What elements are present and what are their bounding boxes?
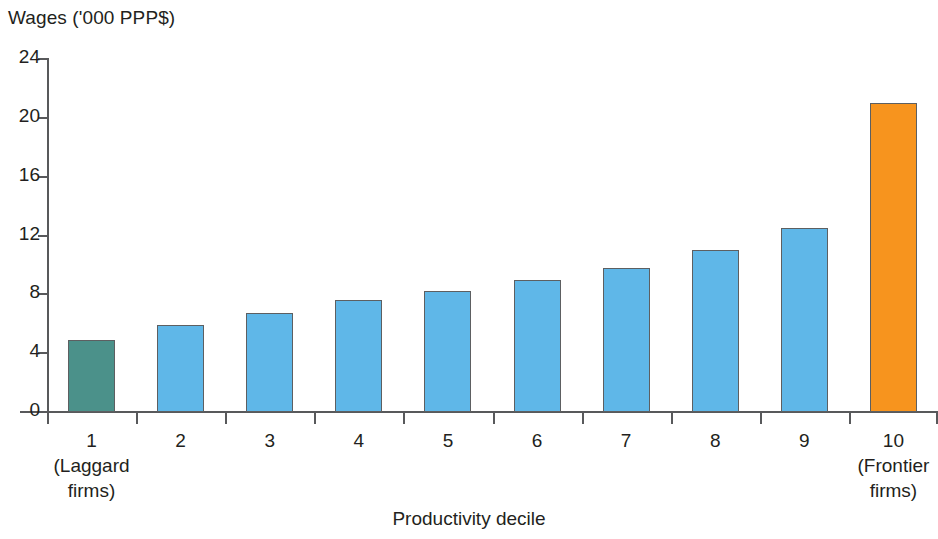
x-tick-mark — [225, 413, 227, 424]
x-tick-mark — [47, 413, 49, 424]
x-label-number: 1 — [86, 430, 97, 451]
x-label-number: 5 — [443, 430, 454, 451]
x-label-number: 8 — [710, 430, 721, 451]
bar-decile-8 — [692, 250, 739, 412]
x-tick-mark — [136, 413, 138, 424]
x-label-decile-6: 6 — [493, 428, 582, 453]
x-label-sublabel: (Frontier — [849, 453, 938, 478]
y-tick-label: 12 — [19, 224, 40, 244]
wages-by-productivity-decile-bar-chart: Wages ('000 PPP$) 24201612840 1(Laggardf… — [0, 0, 938, 539]
x-label-decile-10: 10(Frontierfirms) — [849, 428, 938, 503]
x-label-number: 3 — [264, 430, 275, 451]
x-label-decile-2: 2 — [136, 428, 225, 453]
x-label-decile-4: 4 — [314, 428, 403, 453]
x-label-number: 7 — [621, 430, 632, 451]
bar-decile-6 — [514, 280, 561, 412]
x-label-number: 4 — [354, 430, 365, 451]
x-label-decile-5: 5 — [403, 428, 492, 453]
plot-area — [47, 58, 938, 412]
x-label-sublabel: firms) — [849, 478, 938, 503]
x-tick-mark — [760, 413, 762, 424]
bar-decile-4 — [335, 300, 382, 412]
bar-decile-9 — [781, 228, 828, 412]
y-tick-label: 4 — [29, 341, 40, 361]
y-tick-label: 20 — [19, 106, 40, 126]
x-tick-mark — [493, 413, 495, 424]
x-label-number: 10 — [883, 430, 904, 451]
x-tick-mark — [314, 413, 316, 424]
y-tick-label: 24 — [19, 47, 40, 67]
bar-decile-10 — [870, 103, 917, 412]
y-tick-label: 0 — [29, 400, 40, 420]
x-label-number: 9 — [799, 430, 810, 451]
x-tick-mark — [403, 413, 405, 424]
x-tick-mark — [849, 413, 851, 424]
x-label-decile-8: 8 — [671, 428, 760, 453]
x-label-decile-7: 7 — [582, 428, 671, 453]
bar-decile-2 — [157, 325, 204, 412]
x-label-decile-3: 3 — [225, 428, 314, 453]
bar-decile-5 — [424, 291, 471, 412]
x-label-sublabel: (Laggard — [47, 453, 136, 478]
bar-decile-7 — [603, 268, 650, 412]
y-axis-title: Wages ('000 PPP$) — [8, 7, 175, 29]
x-label-number: 2 — [175, 430, 186, 451]
x-label-sublabel: firms) — [47, 478, 136, 503]
x-tick-mark — [671, 413, 673, 424]
y-tick-label: 16 — [19, 165, 40, 185]
x-label-number: 6 — [532, 430, 543, 451]
bar-decile-1 — [68, 340, 115, 412]
bar-decile-3 — [246, 313, 293, 412]
x-label-decile-1: 1(Laggardfirms) — [47, 428, 136, 503]
x-label-decile-9: 9 — [760, 428, 849, 453]
y-tick-label: 8 — [29, 282, 40, 302]
x-tick-mark — [582, 413, 584, 424]
x-axis-title: Productivity decile — [0, 508, 938, 530]
